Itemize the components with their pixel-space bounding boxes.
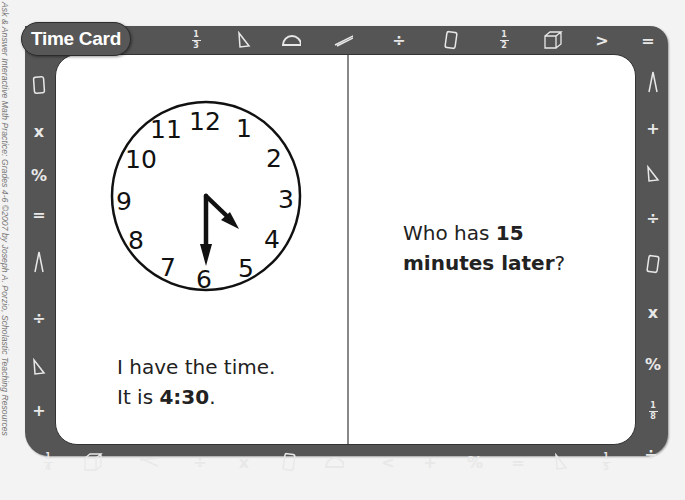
fraction-one-eighth-icon: 18 bbox=[643, 401, 663, 421]
minutes-value: 15 bbox=[496, 221, 524, 245]
clock-number-5: 5 bbox=[238, 254, 254, 283]
clock-number-1: 1 bbox=[236, 114, 252, 143]
multiply-icon: x bbox=[643, 302, 663, 322]
equals-icon: = bbox=[508, 452, 528, 472]
question-prefix: Who has bbox=[403, 221, 496, 245]
fraction-one-third-icon: 13 bbox=[186, 30, 206, 50]
compass-icon bbox=[29, 252, 49, 272]
copyright-credit: Ask & Answer Interactive Math Practice: … bbox=[0, 0, 18, 500]
clock-number-6: 6 bbox=[196, 265, 212, 294]
cube-icon bbox=[543, 30, 563, 50]
rectangle-icon bbox=[643, 254, 663, 274]
multiply-icon: x bbox=[234, 452, 254, 472]
plus-icon: + bbox=[420, 452, 440, 472]
clock-number-10: 10 bbox=[125, 145, 157, 174]
plus-icon: + bbox=[29, 400, 49, 420]
cube-icon bbox=[83, 452, 103, 472]
greater-than-icon: > bbox=[592, 30, 612, 50]
rectangle-icon bbox=[441, 30, 461, 50]
card-title: Time Card bbox=[31, 28, 121, 50]
clock-number-2: 2 bbox=[266, 144, 282, 173]
clock-number-3: 3 bbox=[278, 185, 294, 214]
statement-line-2: It is 4:30. bbox=[117, 382, 275, 412]
equals-icon: = bbox=[29, 204, 49, 224]
percent-icon: % bbox=[29, 165, 49, 185]
triangle-icon bbox=[29, 357, 49, 377]
question-emphasis: minutes later bbox=[403, 251, 555, 275]
triangle-icon bbox=[643, 164, 663, 184]
credit-text: Ask & Answer Interactive Math Practice: … bbox=[0, 2, 10, 436]
fraction-one-half-icon: 12 bbox=[494, 30, 514, 50]
rectangle-icon bbox=[279, 452, 299, 472]
analog-clock: 12 1 2 3 4 5 6 7 8 9 10 11 bbox=[106, 96, 306, 296]
divide-icon: ÷ bbox=[190, 452, 210, 472]
equals-icon: = bbox=[638, 30, 658, 50]
multiply-icon: x bbox=[29, 121, 49, 141]
triangle-icon bbox=[551, 452, 571, 472]
time-value: 4:30 bbox=[159, 385, 209, 409]
question-line-1: Who has 15 bbox=[403, 218, 565, 248]
clock-number-9: 9 bbox=[116, 187, 132, 216]
clock-number-12: 12 bbox=[189, 107, 221, 136]
percent-icon: % bbox=[643, 354, 663, 374]
statement-line-1: I have the time. bbox=[117, 352, 275, 382]
fraction-one-quarter-icon: 14 bbox=[38, 452, 58, 472]
card-title-tab: Time Card bbox=[21, 22, 131, 56]
question-text: Who has 15 minutes later? bbox=[403, 218, 565, 278]
statement-prefix: It is bbox=[117, 385, 159, 409]
clock-number-8: 8 bbox=[128, 226, 144, 255]
triangle-icon bbox=[234, 30, 254, 50]
rectangle-icon bbox=[29, 75, 49, 95]
clock-number-4: 4 bbox=[264, 225, 280, 254]
question-mark: ? bbox=[555, 251, 566, 275]
divide-icon: ÷ bbox=[389, 30, 409, 50]
compass-icon bbox=[138, 452, 158, 472]
fraction-one-fifth-icon: 15 bbox=[596, 452, 616, 472]
statement-suffix: . bbox=[209, 385, 215, 409]
statement-text: I have the time. It is 4:30. bbox=[117, 352, 275, 412]
protractor-icon bbox=[324, 452, 344, 472]
clock-number-11: 11 bbox=[150, 115, 182, 144]
divide-icon: ÷ bbox=[29, 308, 49, 328]
divide-icon: ÷ bbox=[641, 444, 661, 464]
protractor-icon bbox=[281, 30, 301, 50]
less-than-icon: < bbox=[378, 452, 398, 472]
question-line-2: minutes later? bbox=[403, 248, 565, 278]
divide-icon: ÷ bbox=[643, 208, 663, 228]
percent-icon: % bbox=[465, 452, 485, 472]
compass-icon bbox=[643, 72, 663, 92]
clock-number-7: 7 bbox=[160, 253, 176, 282]
card-divider bbox=[347, 55, 349, 444]
plus-icon: + bbox=[643, 118, 663, 138]
compass-icon bbox=[333, 30, 353, 50]
